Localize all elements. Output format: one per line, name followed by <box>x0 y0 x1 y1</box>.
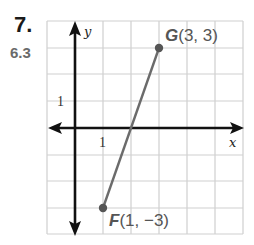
point-g-coords: (3, 3) <box>178 26 218 45</box>
point-f-label: F(1, −3) <box>109 211 169 230</box>
point-f <box>99 204 107 212</box>
point-f-coords: (1, −3) <box>119 211 169 230</box>
x-axis-label: x <box>229 135 237 150</box>
y-axis-label: y <box>83 24 92 39</box>
point-g-name: G <box>165 26 178 45</box>
x-tick-label: 1 <box>99 135 106 150</box>
point-f-name: F <box>109 211 120 230</box>
y-tick-label: 1 <box>57 94 64 109</box>
point-g-label: G(3, 3) <box>165 26 218 45</box>
coordinate-plane: y x 1 1 G(3, 3) F(1, −3) <box>0 0 254 245</box>
point-g <box>155 44 163 52</box>
